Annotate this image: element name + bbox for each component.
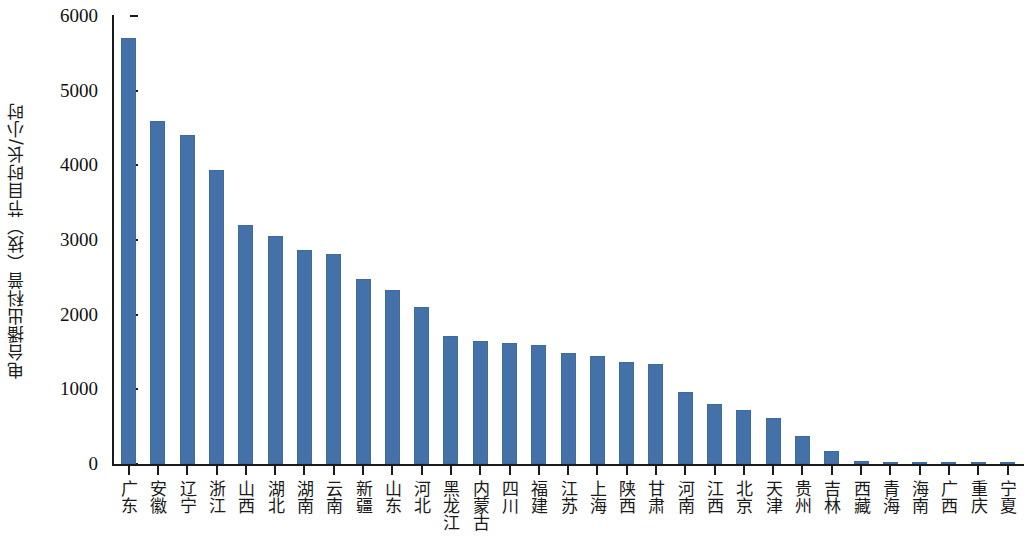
x-tick-label-text: 宁夏: [996, 480, 1020, 551]
bar: [912, 462, 927, 464]
x-tick-mark: [889, 466, 891, 475]
x-tick-label: 河北: [407, 480, 436, 551]
x-tick-label-text: 上海: [585, 480, 609, 551]
bar-slot: [700, 16, 729, 464]
bar: [121, 38, 136, 464]
bar-slot: [671, 16, 700, 464]
x-tick-label-text: 甘肃: [644, 480, 668, 551]
x-tick-label-text: 河南: [673, 480, 697, 551]
x-tick-label-text: 重庆: [966, 480, 990, 551]
x-tick-mark: [655, 466, 657, 475]
bar-slot: [993, 16, 1022, 464]
x-tick-mark: [1007, 466, 1009, 475]
x-tick-label: 上海: [583, 480, 612, 551]
plot-area: [114, 16, 1022, 464]
bar: [824, 451, 839, 464]
x-tick-label-text: 天津: [761, 480, 785, 551]
bar: [180, 135, 195, 464]
x-tick-label: 福建: [524, 480, 553, 551]
x-tick-label: 宁夏: [993, 480, 1022, 551]
bar: [326, 254, 341, 464]
x-tick-label: 河南: [671, 480, 700, 551]
bar: [678, 392, 693, 464]
x-tick-label-text: 江苏: [556, 480, 580, 551]
x-tick-label-text: 北京: [732, 480, 756, 551]
x-tick-label: 江苏: [553, 480, 582, 551]
x-tick-slot: [495, 466, 524, 476]
bar-slot: [495, 16, 524, 464]
bar-slot: [934, 16, 963, 464]
x-tick-slot: [964, 466, 993, 476]
x-tick-slot: [524, 466, 553, 476]
bar-slot: [348, 16, 377, 464]
x-tick-label: 江西: [700, 480, 729, 551]
x-tick-label: 甘肃: [641, 480, 670, 551]
x-tick-label: 山西: [231, 480, 260, 551]
bar-slot: [905, 16, 934, 464]
x-tick-slot: [290, 466, 319, 476]
bar: [414, 307, 429, 464]
x-tick-label-text: 山西: [234, 480, 258, 551]
y-axis-tick-labels: 6000500040003000200010000: [30, 0, 106, 480]
bar: [648, 364, 663, 464]
x-tick-slot: [876, 466, 905, 476]
x-tick-slot: [202, 466, 231, 476]
bar: [707, 404, 722, 464]
x-tick-mark: [421, 466, 423, 475]
x-tick-label-text: 广西: [937, 480, 961, 551]
bar-series: [114, 16, 1022, 464]
bar-slot: [319, 16, 348, 464]
x-tick-slot: [114, 466, 143, 476]
y-tick-label: 2000: [60, 304, 98, 326]
x-tick-label: 安徽: [143, 480, 172, 551]
x-tick-slot: [905, 466, 934, 476]
bar-slot: [466, 16, 495, 464]
bar: [561, 353, 576, 464]
x-tick-slot: [348, 466, 377, 476]
x-tick-label-text: 河北: [410, 480, 434, 551]
y-tick-label: 6000: [60, 5, 98, 27]
x-tick-label-text: 海南: [908, 480, 932, 551]
x-tick-mark: [128, 466, 130, 475]
y-tick-label: 1000: [60, 378, 98, 400]
bar: [268, 236, 283, 464]
bar-slot: [641, 16, 670, 464]
x-tick-label-text: 黑龙江: [439, 480, 463, 551]
bar-slot: [553, 16, 582, 464]
x-tick-label: 海南: [905, 480, 934, 551]
bar: [1000, 462, 1015, 464]
x-tick-mark: [362, 466, 364, 475]
x-tick-mark: [303, 466, 305, 475]
x-tick-slot: [173, 466, 202, 476]
x-tick-label: 内蒙古: [466, 480, 495, 551]
x-tick-slot: [553, 466, 582, 476]
bar: [854, 461, 869, 464]
x-tick-label-text: 广东: [117, 480, 141, 551]
bar-slot: [817, 16, 846, 464]
bar-slot: [231, 16, 260, 464]
bar-slot: [436, 16, 465, 464]
x-tick-mark: [977, 466, 979, 475]
x-tick-slot: [378, 466, 407, 476]
x-tick-label: 云南: [319, 480, 348, 551]
bar-slot: [290, 16, 319, 464]
bar: [971, 462, 986, 464]
bar-slot: [524, 16, 553, 464]
bar-slot: [143, 16, 172, 464]
x-tick-slot: [612, 466, 641, 476]
bar-slot: [876, 16, 905, 464]
bar: [209, 170, 224, 464]
bar: [150, 121, 165, 464]
x-tick-mark: [509, 466, 511, 475]
x-tick-slot: [231, 466, 260, 476]
x-tick-label: 新疆: [348, 480, 377, 551]
x-tick-mark: [801, 466, 803, 475]
x-tick-mark: [860, 466, 862, 475]
bar: [238, 225, 253, 464]
x-tick-label: 湖北: [260, 480, 289, 551]
x-tick-label: 四川: [495, 480, 524, 551]
bar-slot: [788, 16, 817, 464]
x-tick-label: 天津: [759, 480, 788, 551]
bar: [590, 356, 605, 464]
x-tick-label-text: 辽宁: [175, 480, 199, 551]
